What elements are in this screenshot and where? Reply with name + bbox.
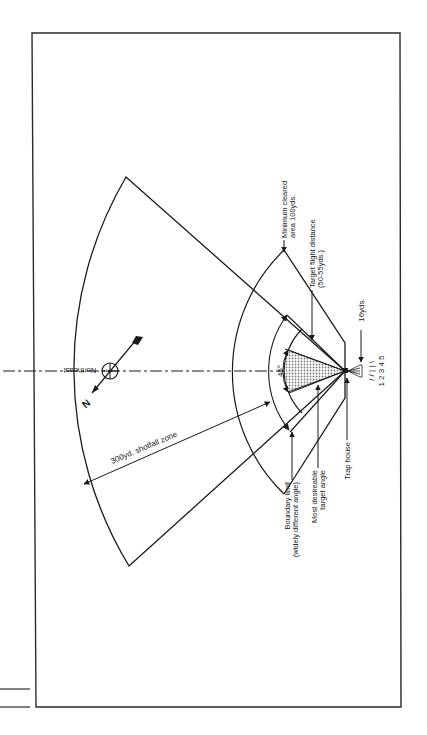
boundary-limit-label-2: (widely different angle) (291, 482, 300, 558)
trap-house-marker (343, 368, 348, 373)
most-desirable-label-2: target angle (318, 470, 327, 510)
northeast-label: Northeast (63, 366, 96, 375)
minimum-cleared-label-2: area 100yds. (288, 195, 297, 238)
shotfall-label: 300yd. shotfall zone (110, 429, 180, 465)
shooting-stations-fan (348, 365, 362, 377)
north-label: N (80, 397, 93, 410)
diagram-canvas: 45° 300yd. shotfall zone N Northeast 1 2… (0, 0, 427, 735)
shotfall-distance-line (84, 402, 270, 484)
target-flight-label-2: (50-55yds.) (316, 250, 325, 288)
station-ticks: / / | | \ (367, 360, 376, 380)
trap-house-label: Trap house (343, 442, 352, 480)
angle-45-label: 45° (276, 365, 285, 377)
compass-rose-icon (92, 336, 143, 393)
sixteen-yds-label: 16yds. (357, 298, 366, 322)
most-desirable-wedge (284, 350, 345, 392)
station-numbers: 1 2 3 4 5 (377, 355, 386, 387)
